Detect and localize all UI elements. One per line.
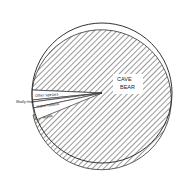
label-cave-bear-1: CAVE: [117, 76, 132, 82]
label-cave-bear-2: BEAR: [120, 84, 135, 90]
label-woolly-rhino: Woolly rhino: [16, 100, 34, 104]
pie-chart: CAVE BEAR Other species Cave hyaena Hors…: [0, 0, 186, 179]
